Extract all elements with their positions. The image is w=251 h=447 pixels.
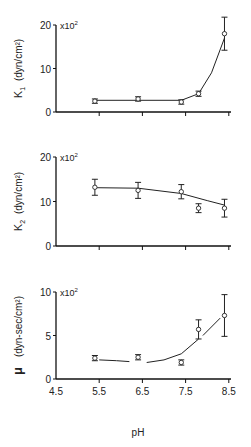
panel-1: 01020x102K1 (dyn/cm²) bbox=[12, 17, 231, 118]
data-point bbox=[196, 92, 200, 96]
data-point bbox=[179, 100, 183, 104]
y-tick-label: 10 bbox=[40, 64, 52, 75]
chart-figure: 01020x102K1 (dyn/cm²)01020x102K2 (dyn/cm… bbox=[0, 0, 251, 447]
data-point bbox=[136, 355, 140, 359]
fit-curve bbox=[99, 360, 129, 362]
y-axis-label: K1 (dyn/cm²) bbox=[12, 39, 26, 98]
x-tick-label: 8.5 bbox=[222, 386, 236, 397]
x-tick-label: 6.5 bbox=[135, 386, 149, 397]
x-tick-label: 5.5 bbox=[92, 386, 106, 397]
data-point bbox=[136, 188, 140, 192]
x-tick-label: 7.5 bbox=[179, 386, 193, 397]
y-tick-label: 0 bbox=[45, 374, 51, 385]
y-tick-label: 0 bbox=[45, 107, 51, 118]
data-point bbox=[93, 185, 97, 189]
multiplier-label: x102 bbox=[60, 152, 79, 163]
data-point bbox=[136, 97, 140, 101]
y-tick-label: 10 bbox=[40, 197, 52, 208]
data-point bbox=[222, 206, 226, 210]
fit-curve bbox=[95, 188, 225, 205]
fit-curve bbox=[203, 318, 220, 335]
y-tick-label: 10 bbox=[40, 287, 52, 298]
x-tick-label: 4.5 bbox=[49, 386, 63, 397]
y-axis-label: K2 (dyn/cm²) bbox=[12, 172, 26, 231]
y-axis-label: μ(dyn-sec/cm²) bbox=[10, 296, 25, 375]
data-point bbox=[222, 32, 226, 36]
multiplier-label: x102 bbox=[60, 287, 79, 298]
y-tick-label: 5 bbox=[45, 331, 51, 342]
data-point bbox=[222, 313, 226, 317]
y-tick-label: 20 bbox=[40, 152, 52, 163]
data-point bbox=[93, 99, 97, 103]
y-tick-label: 0 bbox=[45, 241, 51, 252]
multiplier-label: x102 bbox=[60, 20, 79, 31]
fit-curve bbox=[95, 38, 225, 100]
panel-2: 01020x102K2 (dyn/cm²) bbox=[12, 152, 231, 252]
panel-3: 0510x1024.55.56.57.58.5pHμ(dyn-sec/cm²) bbox=[10, 287, 236, 438]
data-point bbox=[196, 327, 200, 331]
data-point bbox=[179, 190, 183, 194]
data-point bbox=[93, 356, 97, 360]
y-tick-label: 20 bbox=[40, 20, 52, 31]
fit-curve bbox=[147, 339, 199, 363]
x-axis-label: pH bbox=[132, 427, 145, 438]
data-point bbox=[179, 360, 183, 364]
data-point bbox=[196, 206, 200, 210]
